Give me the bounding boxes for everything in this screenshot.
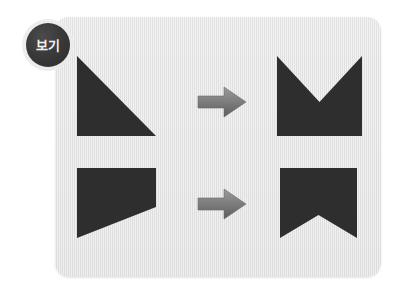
- arrow-right-icon: [198, 87, 246, 117]
- arrow-right-icon: [198, 189, 246, 219]
- flag-trapezoid-shape: [77, 168, 156, 238]
- right-triangle-shape: [77, 56, 156, 136]
- screenshot-stage: 보기: [0, 0, 401, 291]
- view-badge-label: 보기: [36, 39, 59, 52]
- ribbon-notch-shape: [280, 168, 357, 238]
- view-badge: 보기: [26, 23, 70, 67]
- m-notch-shape: [277, 56, 362, 136]
